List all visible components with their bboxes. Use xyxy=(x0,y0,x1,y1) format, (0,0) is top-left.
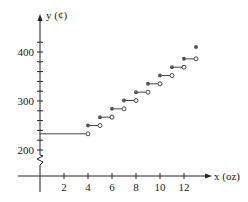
open-endpoint-icon xyxy=(158,82,162,86)
closed-endpoint-icon xyxy=(134,90,138,94)
x-tick-label: 12 xyxy=(179,181,190,193)
closed-endpoint-icon xyxy=(110,107,114,111)
open-endpoint-icon xyxy=(122,107,126,111)
closed-endpoint-icon xyxy=(86,124,90,128)
closed-endpoint-icon xyxy=(122,99,126,103)
x-tick-label: 4 xyxy=(85,181,91,193)
open-endpoint-icon xyxy=(146,90,150,94)
open-endpoint-icon xyxy=(110,115,114,119)
open-endpoint-icon xyxy=(98,124,102,128)
axes: 20030040024681012 xyxy=(18,14,213,193)
final-closed-point-icon xyxy=(194,45,198,49)
closed-endpoint-icon xyxy=(98,115,102,119)
open-endpoint-icon xyxy=(170,74,174,78)
open-endpoint-icon xyxy=(134,99,138,103)
open-endpoint-icon xyxy=(86,132,90,136)
closed-endpoint-icon xyxy=(182,57,186,61)
x-axis-label: x (oz) xyxy=(214,170,240,183)
open-endpoint-icon xyxy=(194,57,198,61)
y-axis-arrow-icon xyxy=(38,14,43,21)
step-function-chart: 20030040024681012 x (oz) y (¢) xyxy=(0,0,248,202)
x-axis-arrow-icon xyxy=(205,174,212,179)
plot-area xyxy=(40,45,198,136)
x-tick-label: 6 xyxy=(109,181,115,193)
closed-endpoint-icon xyxy=(170,65,174,69)
closed-endpoint-icon xyxy=(146,82,150,86)
y-tick-label: 200 xyxy=(18,144,35,156)
y-tick-label: 300 xyxy=(18,95,35,107)
y-tick-label: 400 xyxy=(18,46,35,58)
chart-canvas: 20030040024681012 x (oz) y (¢) xyxy=(0,0,248,202)
axis-break-icon xyxy=(37,155,43,165)
y-axis-label: y (¢) xyxy=(46,9,67,22)
closed-endpoint-icon xyxy=(158,74,162,78)
open-endpoint-icon xyxy=(182,65,186,69)
x-tick-label: 2 xyxy=(61,181,67,193)
x-tick-label: 10 xyxy=(155,181,167,193)
x-tick-label: 8 xyxy=(133,181,139,193)
